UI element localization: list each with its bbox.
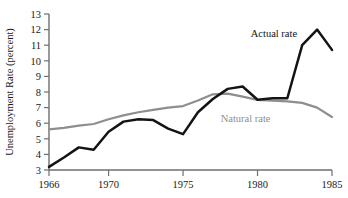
x-axis-tick-label: 1985 <box>322 179 343 190</box>
y-axis-tick-label: 7 <box>36 102 41 113</box>
y-axis-tick-label: 13 <box>31 9 42 20</box>
y-axis-tick-label: 11 <box>31 40 41 51</box>
y-axis-tick-label: 12 <box>31 24 42 35</box>
y-axis-tick-label: 3 <box>36 165 41 176</box>
chart-canvas: 34567891011121319661970197519801985Unemp… <box>0 0 348 198</box>
series-label-actual-rate: Actual rate <box>251 28 298 39</box>
y-axis-tick-label: 5 <box>36 134 41 145</box>
series-line-actual-rate <box>49 30 332 167</box>
y-axis-tick-label: 6 <box>36 118 41 129</box>
chart-figure: 34567891011121319661970197519801985Unemp… <box>0 0 348 198</box>
y-axis-title: Unemployment Rate (percent) <box>4 28 16 156</box>
x-axis-tick-label: 1975 <box>173 179 194 190</box>
y-axis-tick-label: 8 <box>36 87 41 98</box>
y-axis-tick-label: 9 <box>36 71 41 82</box>
x-axis-tick-label: 1980 <box>247 179 268 190</box>
x-axis-tick-label: 1966 <box>39 179 60 190</box>
x-axis-tick-label: 1970 <box>98 179 119 190</box>
y-axis-tick-label: 10 <box>31 56 42 67</box>
y-axis-tick-label: 4 <box>36 149 42 160</box>
series-label-natural-rate: Natural rate <box>221 113 271 124</box>
